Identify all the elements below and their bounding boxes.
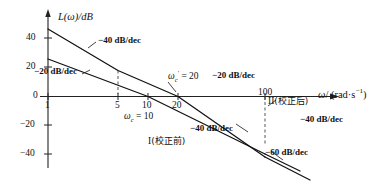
branch-two-note: (校正后) (274, 96, 308, 106)
y-axis-title: L(ω)/dB (58, 12, 93, 23)
leader-slope-40-lower (236, 124, 248, 132)
y-tick-label-0: 0 (33, 91, 38, 101)
branch-label-uncorrected: I(校正前) (148, 137, 185, 147)
x-tick-label-20: 20 (172, 101, 182, 111)
x-axis-title-unit-exponent: −1 (355, 87, 363, 95)
curve-corrected-system-extension (265, 157, 310, 180)
slope-label-minus-40-right: −40 dB/dec (300, 115, 343, 124)
omega-c-original-subscript: c (131, 116, 134, 123)
slope-label-minus-40-lower: −40 dB/dec (190, 124, 233, 133)
slope-label-minus-20-right: −20 dB/dec (212, 71, 255, 80)
omega-c-corrected-prime: ′ (178, 69, 179, 76)
slope-label-minus-40-upper: −40 dB/dec (98, 36, 141, 45)
branch-one-note: (校正前) (151, 136, 185, 146)
omega-c-original-label: ωc = 10 (124, 112, 153, 123)
slope-label-minus-60-right: −60 dB/dec (265, 148, 308, 157)
omega-c-original-value: = 10 (136, 111, 153, 121)
y-tick-label-40: 40 (26, 33, 36, 43)
branch-label-corrected: II(校正后) (268, 97, 308, 107)
slope-label-minus-20-left: −20 dB/dec (34, 67, 77, 76)
x-tick-label-1: 1 (45, 101, 50, 111)
x-axis-title-unit: / (rad·s (325, 89, 355, 100)
y-axis-arrowhead (45, 9, 50, 17)
omega-c-corrected-symbol: ω (168, 71, 175, 81)
omega-c-corrected-label: ωc′ = 20 (168, 70, 199, 84)
x-tick-label-5: 5 (115, 101, 120, 111)
leader-omega-c-prime (168, 82, 176, 92)
x-axis-title-unit-close: ) (363, 89, 367, 100)
x-axis-title: ω/ (rad·s−1) (318, 88, 367, 100)
omega-c-original-symbol: ω (124, 111, 131, 121)
y-tick-label-minus-20: −20 (20, 120, 35, 130)
omega-c-corrected-value: = 20 (181, 71, 198, 81)
leader-slope-40-upper (88, 42, 96, 48)
bode-plot-figure: L(ω)/dB 40 20 0 −20 −40 1 5 10 20 100 ω/… (0, 0, 388, 187)
omega-c-corrected-subscript: c (175, 76, 178, 83)
x-tick-label-10: 10 (142, 101, 152, 111)
y-tick-label-minus-40: −40 (20, 149, 35, 159)
